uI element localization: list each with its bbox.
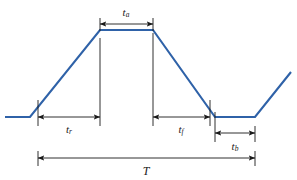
- timing-diagram-figure: ta tr tf tb T: [0, 0, 297, 180]
- trapezoidal-pulse-waveform: [5, 30, 291, 117]
- timing-diagram-canvas: ta tr tf tb T: [0, 0, 297, 180]
- label-t-a: ta: [123, 6, 130, 19]
- label-t-b: tb: [232, 140, 239, 153]
- label-t-r-subscript: r: [69, 127, 72, 136]
- label-t-f-subscript: f: [181, 127, 184, 136]
- label-period: T: [143, 164, 151, 178]
- dimension-labels-group: ta tr tf tb T: [66, 6, 239, 178]
- label-t-b-subscript: b: [235, 144, 239, 153]
- label-t-f: tf: [178, 123, 184, 136]
- label-period-base: T: [143, 164, 151, 178]
- label-t-a-subscript: a: [126, 10, 130, 19]
- label-t-r: tr: [66, 123, 72, 136]
- leader-lines-group: [38, 18, 255, 166]
- waveform-group: [5, 30, 291, 117]
- dimension-arrows-group: [38, 24, 255, 158]
